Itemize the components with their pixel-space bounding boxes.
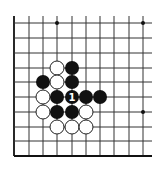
black-stone [36, 75, 50, 89]
black-stone [50, 90, 64, 104]
black-stone [65, 61, 79, 75]
black-stone [93, 90, 107, 104]
go-board: 1 [0, 0, 163, 170]
star-point [141, 21, 145, 25]
white-stone [50, 120, 64, 134]
white-stone [50, 75, 64, 89]
star-point [141, 110, 145, 114]
black-stone [50, 105, 64, 119]
grid-lines [14, 16, 152, 156]
white-stone [36, 105, 50, 119]
white-stone [79, 105, 93, 119]
white-stone [50, 61, 64, 75]
move-number-label: 1 [69, 92, 76, 103]
white-stone [36, 90, 50, 104]
white-stone [65, 120, 79, 134]
black-stone [65, 105, 79, 119]
black-stone [79, 90, 93, 104]
white-stone [79, 120, 93, 134]
star-point [55, 21, 59, 25]
stones: 1 [36, 61, 107, 134]
black-stone [65, 75, 79, 89]
